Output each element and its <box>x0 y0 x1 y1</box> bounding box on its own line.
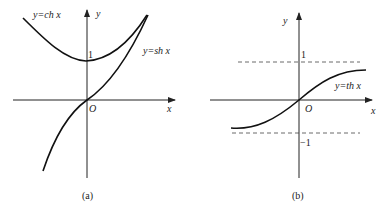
hyperbolic-functions-figure: y x O 1 y=ch x y=sh x (a) y x O 1 −1 y=t… <box>0 0 383 213</box>
y-axis-label: y <box>95 8 101 19</box>
sinh-curve <box>43 15 148 171</box>
sinh-label: y=sh x <box>142 45 171 56</box>
tick-pos1-label: 1 <box>301 49 306 60</box>
tick-1-label: 1 <box>88 49 93 60</box>
caption-a: (a) <box>82 190 93 202</box>
cosh-curve <box>23 15 147 61</box>
x-axis-label: x <box>166 103 172 114</box>
origin-label: O <box>305 103 312 114</box>
origin-label: O <box>89 103 96 114</box>
caption-b: (b) <box>292 190 304 202</box>
panel-a: y x O 1 y=ch x y=sh x (a) <box>13 8 175 202</box>
y-axis-label: y <box>282 15 288 26</box>
tick-neg1-label: −1 <box>300 137 311 148</box>
cosh-label: y=ch x <box>32 9 61 20</box>
x-axis-label: x <box>370 105 376 116</box>
panel-b: y x O 1 −1 y=th x (b) <box>210 13 376 202</box>
tanh-label: y=th x <box>334 80 361 91</box>
